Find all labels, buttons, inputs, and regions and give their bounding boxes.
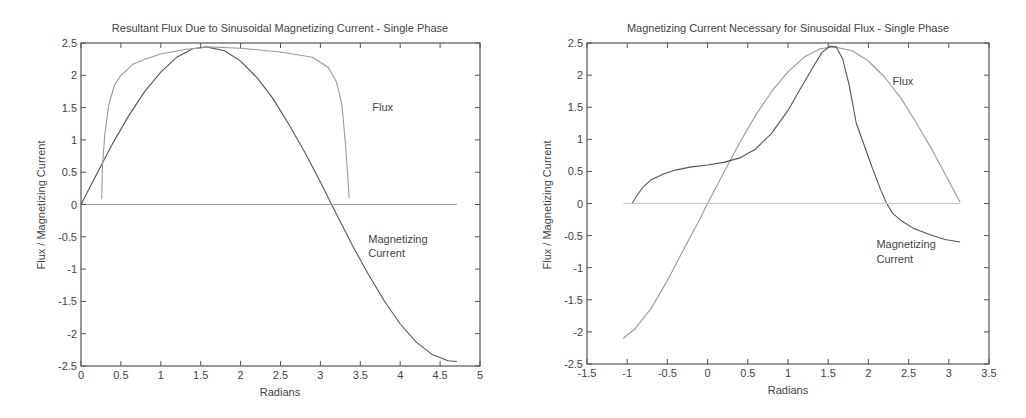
x-tick-label: 2 (238, 369, 244, 381)
y-tick-label: 2 (577, 69, 583, 81)
x-tick-label: -1 (622, 367, 632, 379)
y-tick-label: 1.5 (568, 101, 583, 113)
y-tick-label: 0.5 (62, 166, 77, 178)
x-tick-label: 3.5 (353, 369, 368, 381)
figure: Resultant Flux Due to Sinusoidal Magneti… (0, 0, 1026, 418)
x-tick-label: 2.5 (901, 367, 916, 379)
x-tick-label: 4.5 (432, 369, 447, 381)
y-tick-label: -1.5 (58, 295, 77, 307)
axis-ticks: 00.511.522.533.544.552.521.510.50-0.5-1-… (58, 37, 483, 381)
chart-title: Resultant Flux Due to Sinusoidal Magneti… (112, 22, 448, 34)
y-axis-label: Flux / Magnetizing Current (35, 141, 47, 270)
x-tick-label: 5 (477, 369, 483, 381)
y-tick-label: 0.5 (568, 165, 583, 177)
y-tick-label: 2.5 (62, 37, 77, 49)
axis-ticks: -1.5-1-0.500.511.522.533.52.521.510.50-0… (564, 37, 997, 379)
annotations: FluxMagnetizingCurrent (368, 101, 427, 260)
annotation-label: Current (368, 247, 405, 259)
y-tick-label: 1 (577, 133, 583, 145)
series-flux (623, 47, 960, 338)
series-flux (102, 47, 349, 199)
y-tick-label: 0 (577, 198, 583, 210)
x-axis-label: Radians (768, 384, 809, 396)
chart-title: Magnetizing Current Necessary for Sinuso… (627, 22, 949, 34)
y-tick-label: -1 (573, 262, 583, 274)
x-tick-label: -0.5 (658, 367, 677, 379)
chart-magnetizing-current: Magnetizing Current Necessary for Sinuso… (541, 22, 997, 396)
x-tick-label: 0 (78, 369, 84, 381)
annotation-label: Flux (893, 75, 914, 87)
annotation-label: Flux (372, 101, 393, 113)
x-tick-label: 0.5 (113, 369, 128, 381)
y-tick-label: -0.5 (564, 230, 583, 242)
y-tick-label: -2 (67, 328, 77, 340)
annotation-label: Magnetizing (368, 233, 427, 245)
x-tick-label: 2 (865, 367, 871, 379)
x-tick-label: 3.5 (981, 367, 996, 379)
x-axis-label: Radians (260, 386, 301, 398)
y-axis-label: Flux / Magnetizing Current (541, 141, 553, 270)
annotation-label: Current (876, 253, 913, 265)
chart-resultant-flux: Resultant Flux Due to Sinusoidal Magneti… (35, 22, 483, 398)
y-tick-label: 2.5 (568, 37, 583, 49)
annotations: FluxMagnetizingCurrent (876, 75, 935, 265)
x-tick-label: 1 (785, 367, 791, 379)
annotation-label: Magnetizing (876, 238, 935, 250)
y-tick-label: 2 (71, 69, 77, 81)
y-tick-label: 1.5 (62, 102, 77, 114)
y-tick-label: -2.5 (58, 360, 77, 372)
y-tick-label: 0 (71, 199, 77, 211)
y-tick-label: -1.5 (564, 294, 583, 306)
y-tick-label: -0.5 (58, 231, 77, 243)
x-tick-label: 2.5 (273, 369, 288, 381)
y-tick-label: -1 (67, 263, 77, 275)
x-tick-label: 1.5 (821, 367, 836, 379)
y-tick-label: -2 (573, 326, 583, 338)
x-tick-label: 1 (158, 369, 164, 381)
x-tick-label: 3 (317, 369, 323, 381)
y-tick-label: 1 (71, 134, 77, 146)
x-tick-label: 4 (397, 369, 403, 381)
plot-area (81, 47, 457, 362)
x-tick-label: 1.5 (193, 369, 208, 381)
x-tick-label: 0 (705, 367, 711, 379)
x-tick-label: 3 (946, 367, 952, 379)
plot-area (623, 46, 960, 338)
x-tick-label: 0.5 (740, 367, 755, 379)
y-tick-label: -2.5 (564, 358, 583, 370)
